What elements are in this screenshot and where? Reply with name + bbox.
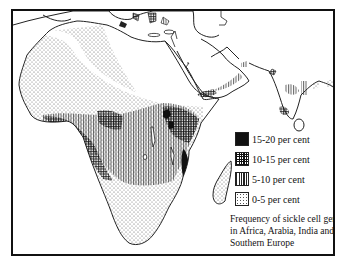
legend-label: 10-15 per cent: [252, 154, 310, 165]
legend-item-10-15: 10-15 per cent: [235, 149, 325, 169]
legend-label: 0-5 per cent: [252, 194, 300, 205]
legend-label: 5-10 per cent: [252, 174, 305, 185]
crosshatch-swatch-icon: [235, 152, 249, 166]
india: [249, 63, 333, 131]
vertical-lines-swatch-icon: [235, 172, 249, 186]
legend: 15-20 per cent 10-15 per cent 5-10 per c…: [235, 129, 325, 209]
legend-label: 15-20 per cent: [252, 134, 310, 145]
map-frame: 15-20 per cent 10-15 per cent 5-10 per c…: [11, 9, 335, 256]
solid-black-swatch-icon: [235, 132, 249, 146]
caption-line: in Africa, Arabia, India and: [230, 225, 335, 237]
africa: [13, 21, 231, 251]
legend-item-0-5: 0-5 per cent: [235, 189, 325, 209]
legend-item-15-20: 15-20 per cent: [235, 129, 325, 149]
stipple-swatch-icon: [235, 192, 249, 206]
legend-item-5-10: 5-10 per cent: [235, 169, 325, 189]
caption-line: Frequency of sickle cell gene: [230, 213, 335, 225]
figure-caption: Frequency of sickle cell gene in Africa,…: [230, 213, 335, 249]
caption-line: Southern Europe: [230, 237, 335, 249]
